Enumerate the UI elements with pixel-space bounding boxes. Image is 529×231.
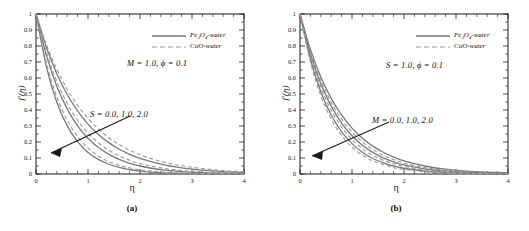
x-tick-label: 4 <box>498 177 518 184</box>
y-tick-label: 0.3 <box>8 122 32 129</box>
y-tick-label: 0.9 <box>272 26 296 33</box>
x-tick-label: 4 <box>234 177 254 184</box>
y-tick-label: 0.5 <box>8 90 32 97</box>
y-tick-label: 0.9 <box>8 26 32 33</box>
y-tick-label: 0.8 <box>272 42 296 49</box>
parameter-note-a: M = 1.0, ϕ = 0.1 <box>127 58 187 68</box>
y-tick-label: 0 <box>272 170 296 177</box>
legend-label-fe3o4-b: Fe3O4-water <box>454 31 490 40</box>
panel-b: f′(η) η Fe3O4-water CuO-water S = 1.0, ϕ… <box>264 0 528 231</box>
legend-label-fe3o4-a: Fe3O4-water <box>190 31 226 40</box>
panel-a: f′(η) η Fe3O4-water CuO-water M = 1.0, ϕ… <box>0 0 264 231</box>
x-tick-label: 2 <box>130 177 150 184</box>
y-tick-label: 0.6 <box>8 74 32 81</box>
x-tick-label: 0 <box>26 177 46 184</box>
x-tick-label: 2 <box>394 177 414 184</box>
legend-label-cuo-b: CuO-water <box>454 42 486 50</box>
y-tick-label: 0.3 <box>272 122 296 129</box>
figure-container: f′(η) η Fe3O4-water CuO-water M = 1.0, ϕ… <box>0 0 529 231</box>
x-tick-label: 3 <box>182 177 202 184</box>
y-tick-label: 0.2 <box>8 138 32 145</box>
plot-a <box>0 0 264 200</box>
parameter-note-b: S = 1.0, ϕ = 0.1 <box>386 60 443 70</box>
subcaption-b: (b) <box>264 203 528 213</box>
legend-fe-tail: -water <box>207 31 225 39</box>
legend-cuo-tail-b: -water <box>467 42 485 50</box>
y-tick-label: 0.4 <box>8 106 32 113</box>
x-tick-label: 1 <box>342 177 362 184</box>
y-tick-label: 0.7 <box>272 58 296 65</box>
y-tick-label: 0.1 <box>272 154 296 161</box>
legend-cuo-b: CuO <box>454 42 467 50</box>
plot-b <box>264 0 528 200</box>
y-tick-label: 0.2 <box>272 138 296 145</box>
legend-cuo-tail: -water <box>203 42 221 50</box>
legend-label-cuo-a: CuO-water <box>190 42 222 50</box>
y-tick-label: 0.8 <box>8 42 32 49</box>
y-tick-label: 0.6 <box>272 74 296 81</box>
y-tick-label: 1 <box>272 10 296 17</box>
x-tick-label: 3 <box>446 177 466 184</box>
legend-fe-tail-b: -water <box>471 31 489 39</box>
y-tick-label: 0 <box>8 170 32 177</box>
x-tick-label: 1 <box>78 177 98 184</box>
y-tick-label: 0.4 <box>272 106 296 113</box>
y-tick-label: 1 <box>8 10 32 17</box>
y-tick-label: 0.5 <box>272 90 296 97</box>
arrow-label-b: M = 0.0, 1.0, 2.0 <box>372 115 433 125</box>
y-tick-label: 0.1 <box>8 154 32 161</box>
arrow-label-a: S = 0.0, 1.0, 2.0 <box>90 109 148 119</box>
subcaption-a: (a) <box>0 203 264 213</box>
legend-cuo: CuO <box>190 42 203 50</box>
y-tick-label: 0.7 <box>8 58 32 65</box>
x-tick-label: 0 <box>290 177 310 184</box>
